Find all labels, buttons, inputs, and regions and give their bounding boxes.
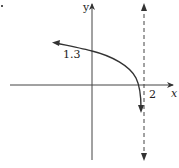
asymptote-tick-label: 2 [149, 88, 156, 101]
y-intercept-label: 1.3 [63, 48, 81, 61]
y-axis-label: y [82, 1, 90, 14]
curve-arrow-left [52, 40, 60, 46]
curve-arrow-down [138, 105, 144, 113]
x-axis-label: x [171, 87, 178, 100]
asymptote-arrow-down [141, 153, 147, 161]
function-graph: y x 1.3 2 [0, 0, 179, 168]
asymptote-arrow-up [141, 3, 147, 11]
